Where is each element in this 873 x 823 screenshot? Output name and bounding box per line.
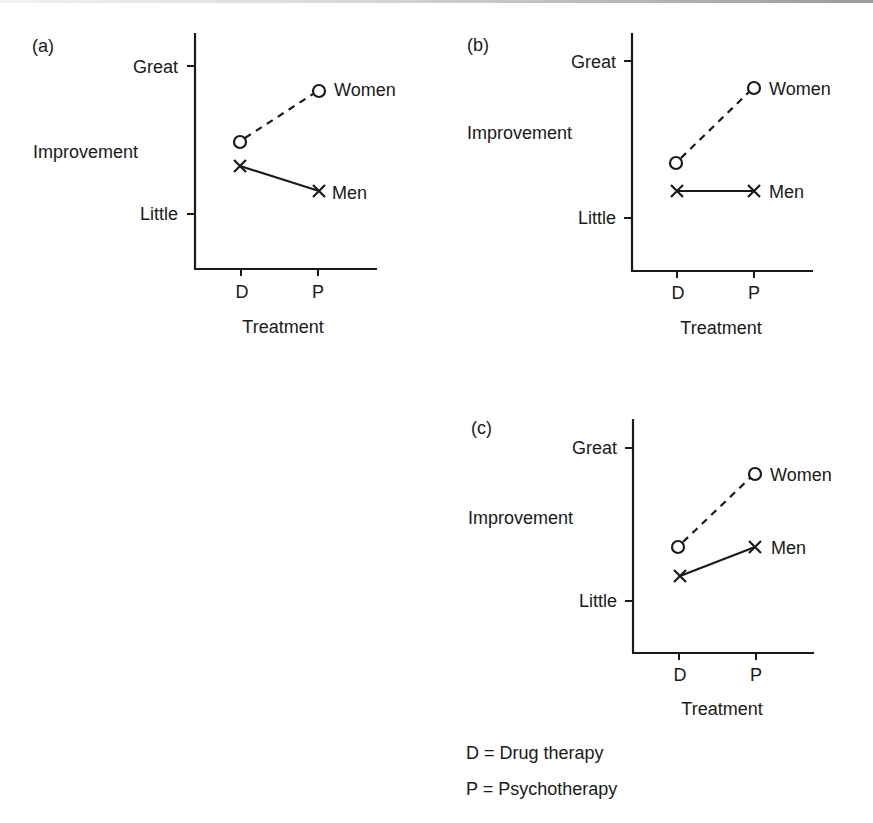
panel-c: (c) Great Little Improvement D P Treatme…	[468, 418, 832, 719]
x-tick-label-d: D	[674, 665, 687, 685]
x-axis-label: Treatment	[680, 318, 761, 338]
x-tick-label-d: D	[672, 283, 685, 303]
men-line	[680, 547, 755, 576]
x-tick-label-p: P	[750, 665, 762, 685]
men-marker-d	[234, 160, 246, 172]
y-tick-label-great: Great	[572, 438, 617, 458]
y-axis-label: Improvement	[467, 123, 572, 143]
y-tick-label-little: Little	[579, 591, 617, 611]
women-label: Women	[769, 79, 831, 99]
women-line	[681, 92, 749, 158]
y-tick-label-great: Great	[571, 52, 616, 72]
panel-label: (c)	[471, 418, 492, 438]
y-tick-label-great: Great	[133, 57, 178, 77]
women-marker-d	[234, 136, 246, 148]
women-label: Women	[770, 465, 832, 485]
legend-item-d: D = Drug therapy	[466, 742, 604, 764]
women-line	[245, 94, 313, 138]
women-marker-p	[749, 468, 761, 480]
y-tick-label-little: Little	[140, 204, 178, 224]
panel-label: (a)	[32, 36, 54, 56]
y-axis-label: Improvement	[33, 142, 138, 162]
men-label: Men	[332, 183, 367, 203]
figure: (a) Great Little Improvement D P Treatme…	[0, 0, 873, 823]
y-axis-label: Improvement	[468, 508, 573, 528]
x-tick-label-p: P	[312, 282, 324, 302]
men-label: Men	[771, 538, 806, 558]
x-axis-label: Treatment	[681, 699, 762, 719]
panel-a: (a) Great Little Improvement D P Treatme…	[32, 33, 396, 337]
x-axis-label: Treatment	[242, 317, 323, 337]
men-label: Men	[769, 182, 804, 202]
panel-label: (b)	[467, 35, 489, 55]
women-marker-d	[672, 541, 684, 553]
women-marker-p	[313, 85, 325, 97]
panel-b: (b) Great Little Improvement D P Treatme…	[467, 33, 831, 338]
women-marker-p	[748, 82, 760, 94]
women-label: Women	[334, 80, 396, 100]
women-line	[683, 478, 750, 542]
y-tick-label-little: Little	[578, 208, 616, 228]
men-marker-p	[313, 185, 325, 197]
women-marker-d	[670, 157, 682, 169]
men-marker-d	[674, 570, 686, 582]
x-tick-label-p: P	[748, 283, 760, 303]
legend-item-p: P = Psychotherapy	[466, 778, 617, 800]
x-tick-label-d: D	[236, 282, 249, 302]
men-marker-p	[749, 541, 761, 553]
men-line	[240, 166, 319, 191]
